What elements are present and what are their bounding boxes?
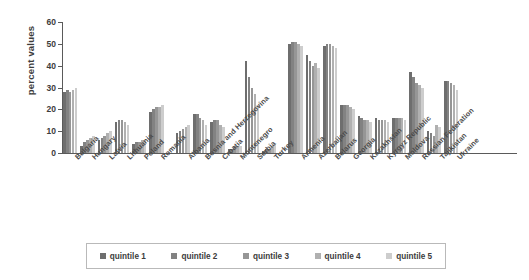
y-tick — [58, 44, 62, 45]
x-axis-labels: BulgariaHungaryLatviaLithuaniaPolandRoma… — [62, 155, 522, 225]
chart-legend: quintile 1quintile 2quintile 3quintile 4… — [86, 243, 446, 269]
y-tick-label: 30 — [47, 83, 56, 93]
y-tick — [58, 109, 62, 110]
country-bars[interactable] — [63, 22, 80, 153]
y-tick-label: 40 — [47, 61, 56, 71]
y-tick-label: 20 — [47, 104, 56, 114]
country-bars[interactable] — [115, 22, 132, 153]
country-bars[interactable] — [193, 22, 210, 153]
legend-item[interactable]: quintile 5 — [386, 252, 432, 261]
y-tick-label: 10 — [47, 126, 56, 136]
legend-item[interactable]: quintile 3 — [243, 252, 289, 261]
legend-label: quintile 3 — [253, 252, 289, 261]
country-bars[interactable] — [288, 22, 305, 153]
legend-label: quintile 1 — [110, 252, 146, 261]
legend-label: quintile 2 — [181, 252, 217, 261]
y-tick-label: 50 — [47, 39, 56, 49]
y-tick-label: 0 — [51, 148, 56, 158]
legend-swatch-icon — [315, 253, 321, 259]
group-spacer — [279, 22, 288, 153]
legend-item[interactable]: quintile 2 — [171, 252, 217, 261]
legend-label: quintile 4 — [325, 252, 361, 261]
group-spacer — [167, 22, 176, 153]
y-tick — [58, 131, 62, 132]
y-tick — [58, 66, 62, 67]
y-axis-title: percent values — [25, 0, 36, 131]
country-bars[interactable] — [98, 22, 115, 153]
y-tick-label: 60 — [47, 17, 56, 27]
country-bars[interactable] — [80, 22, 97, 153]
legend-item[interactable]: quintile 4 — [315, 252, 361, 261]
legend-label: quintile 5 — [396, 252, 432, 261]
country-bars[interactable] — [149, 22, 166, 153]
country-bars[interactable] — [176, 22, 193, 153]
bar-group — [288, 22, 461, 153]
legend-swatch-icon — [171, 253, 177, 259]
country-bars[interactable] — [358, 22, 375, 153]
y-tick — [58, 88, 62, 89]
legend-item[interactable]: quintile 1 — [100, 252, 146, 261]
legend-swatch-icon — [386, 253, 392, 259]
bar-chart: percent values 0102030405060 BulgariaHun… — [0, 0, 529, 280]
legend-swatch-icon — [243, 253, 249, 259]
y-tick — [58, 22, 62, 23]
y-tick — [58, 153, 62, 154]
legend-swatch-icon — [100, 253, 106, 259]
